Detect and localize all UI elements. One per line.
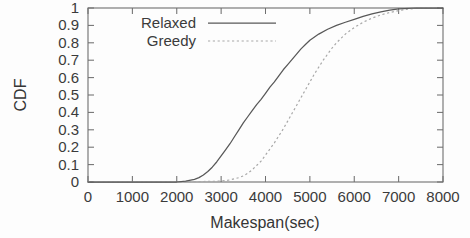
y-axis-tick-labels: 00.10.20.30.40.50.60.70.80.91 <box>58 0 79 190</box>
y-tick-label: 1 <box>71 0 79 16</box>
x-axis-tick-labels: 010002000300040005000600070008000 <box>84 188 460 205</box>
x-tick-label: 8000 <box>426 188 459 205</box>
y-tick-label: 0 <box>71 173 79 190</box>
x-tick-label: 5000 <box>293 188 326 205</box>
legend-label-greedy: Greedy <box>147 32 197 49</box>
x-tick-label: 6000 <box>338 188 371 205</box>
series-line-greedy <box>88 8 443 182</box>
x-tick-label: 3000 <box>204 188 237 205</box>
y-tick-label: 0.5 <box>58 86 79 103</box>
x-axis-ticks <box>88 8 443 182</box>
series-line-relaxed <box>88 8 443 182</box>
x-tick-label: 2000 <box>160 188 193 205</box>
chart-svg: 00.10.20.30.40.50.60.70.80.91 0100020003… <box>0 0 470 238</box>
y-tick-label: 0.3 <box>58 121 79 138</box>
legend-label-relaxed: Relaxed <box>141 14 196 31</box>
y-tick-label: 0.4 <box>58 103 79 120</box>
y-tick-label: 0.2 <box>58 138 79 155</box>
x-tick-label: 0 <box>84 188 92 205</box>
series-group <box>88 8 443 182</box>
cdf-chart: 00.10.20.30.40.50.60.70.80.91 0100020003… <box>0 0 470 238</box>
y-tick-label: 0.6 <box>58 69 79 86</box>
y-tick-label: 0.8 <box>58 34 79 51</box>
legend: Relaxed Greedy <box>141 14 276 49</box>
plot-frame <box>88 8 443 182</box>
x-tick-label: 1000 <box>116 188 149 205</box>
chart-figure-root: 00.10.20.30.40.50.60.70.80.91 0100020003… <box>0 0 470 238</box>
y-axis-title-text: CDF <box>12 78 29 111</box>
y-axis-title: CDF <box>12 78 29 111</box>
y-tick-label: 0.9 <box>58 16 79 33</box>
y-axis-ticks <box>88 8 443 182</box>
y-tick-label: 0.1 <box>58 156 79 173</box>
x-tick-label: 4000 <box>249 188 282 205</box>
x-axis-title: Makespan(sec) <box>210 214 319 231</box>
x-axis-title-text: Makespan(sec) <box>210 214 319 231</box>
y-tick-label: 0.7 <box>58 51 79 68</box>
x-tick-label: 7000 <box>382 188 415 205</box>
